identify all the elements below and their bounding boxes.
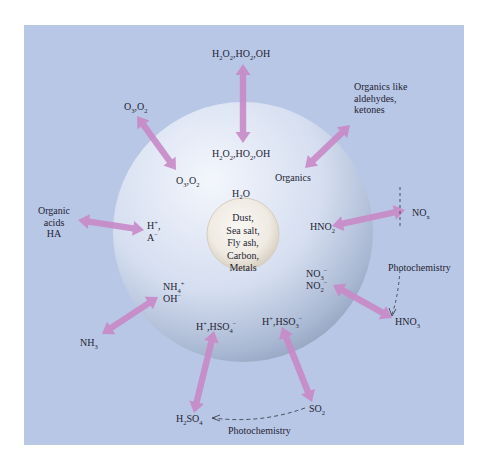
core-label-line: Dust, bbox=[204, 212, 282, 225]
gas-label-organics: Organics likealdehydes,ketones bbox=[354, 81, 407, 116]
aqueous-label-ozone: O3,O2 bbox=[176, 175, 199, 187]
gas-label-organic-acids: OrganicacidsHA bbox=[38, 205, 70, 240]
aqueous-label-ammonia: NH4+OH− bbox=[163, 281, 184, 304]
photochemistry-label-so2: Photochemistry bbox=[228, 425, 291, 437]
gas-label-hno3: HNO3 bbox=[395, 316, 420, 328]
aqueous-label-nox: HNO2 bbox=[310, 221, 335, 233]
core-label-line: Sea salt, bbox=[204, 225, 282, 238]
core-label: Dust, Sea salt, Fly ash, Carbon, Metals bbox=[204, 212, 282, 275]
core-label-line: Metals bbox=[204, 262, 282, 275]
gas-label-oxidants: H2O2,HO2,OH bbox=[212, 48, 270, 60]
aqueous-label-hno3: NO3−NO2− bbox=[306, 268, 327, 291]
gas-label-nox: NOx bbox=[412, 207, 430, 219]
aqueous-label-oxidants: H2O2,HO2,OH bbox=[212, 148, 270, 160]
aqueous-label-so2: H+,HSO3− bbox=[262, 316, 302, 328]
gas-label-ammonia: NH3 bbox=[80, 337, 98, 349]
aqueous-label-organics: Organics bbox=[275, 172, 311, 184]
aqueous-label-sulfuric: H+,HSO4− bbox=[196, 321, 236, 333]
photochemistry-label-nox: Photochemistry bbox=[388, 262, 451, 274]
gas-label-so2: SO2 bbox=[309, 403, 325, 415]
gas-label-ozone: O3,O2 bbox=[124, 101, 147, 113]
core-label-line: Carbon, bbox=[204, 250, 282, 263]
solvent-label: H₂O bbox=[232, 188, 250, 200]
gas-label-sulfuric: H2SO4 bbox=[176, 413, 203, 425]
aqueous-label-organic-acids: H+,A− bbox=[147, 220, 160, 243]
photochemistry-path-so2 bbox=[213, 408, 305, 420]
core-label-line: Fly ash, bbox=[204, 237, 282, 250]
